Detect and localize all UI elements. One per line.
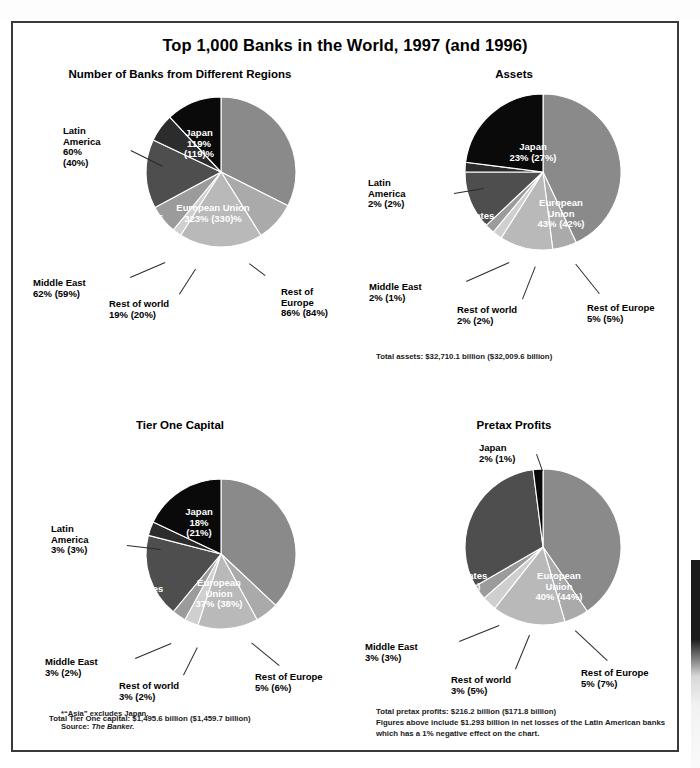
panel-number-of-banks: Number of Banks from Different Regions E… [13,68,347,388]
slice-label-value: 13%(12%) [194,647,219,669]
slice-label-name: United States [103,583,164,594]
panel-title-tier-one-capital: Tier One Capital [13,419,347,431]
slice-label-european-union: EuropeanUnion40% (44%) [536,571,583,603]
slice-label-asia: Asia*13%(12%) [194,637,219,669]
slice-label-name: Japan [519,141,546,152]
scan-margin-top [0,0,700,21]
slice-label-middle-east: Middle East3% (3%) [365,642,418,663]
slice-label-name: Rest of world [119,680,179,691]
panel-assets: Assets Total assets: $32,710.1 billion (… [347,68,681,388]
slice-label-japan: Japan18%(21%) [185,507,212,539]
slice-label-name: Middle East [33,277,86,288]
leader-line [135,643,171,659]
slice-label-name: Japan [185,506,212,517]
slice-label-european-union: European Union323% (330)% [176,203,249,224]
slice-label-united-states: United States31% (34%) [427,571,488,592]
leader-line [466,262,509,282]
slice-label-rest-of-europe: Rest of Europe5% (6%) [255,672,323,693]
slice-label-value: 5% (5%) [587,313,623,324]
leader-line [251,642,280,666]
pie-svg-number-of-banks [145,96,297,248]
footnote-asia: *“Asia” excludes Japan. [61,708,148,721]
slice-label-japan: Japan2% (1%) [479,443,515,464]
slice-label-japan: Japan23% (27%) [510,142,557,163]
slice-label-name: Asia* [201,266,225,277]
slice-label-value: 23% (27%) [510,152,557,163]
slice-label-japan: Japan119%(119)% [184,128,214,160]
slice-label-name: Middle East [365,641,418,652]
leader-line [459,625,499,642]
slice-label-rest-of-world: Rest of world2% (2%) [457,305,517,326]
slice-label-latin-america: LatinAmerica60%(40%) [63,126,101,169]
panel-title-pretax-profits: Pretax Profits [347,419,681,431]
slice-label-value: 18%(21%) [186,517,211,539]
slice-label-name: Rest of world [451,674,511,685]
slice-label-name: Rest of Europe [587,302,655,313]
slice-label-latin-america: LatinAmerica3% (3%) [51,524,89,556]
slice-label-name: LatinAmerica [368,177,406,199]
slice-label-asia: Asia*15%(16%) [528,632,553,664]
slice-label-name: United States [103,211,164,222]
slice-label-united-states: United States18% (16%) [103,584,164,605]
slice-label-value: 119%(119)% [184,138,214,160]
scan-edge-artifact [691,560,700,768]
slice-label-middle-east: Middle East62% (59%) [33,278,86,299]
slice-label-value: 3% (5%) [451,685,487,696]
slice-label-value: 2% (2%) [368,198,404,209]
slice-label-rest-of-world: Rest of world3% (2%) [119,681,179,702]
slice-label-rest-of-europe: Rest of Europe5% (7%) [581,668,649,689]
slice-label-value: 148% (156%) [104,222,162,233]
slice-label-name: European Union [176,202,249,213]
slice-label-value: 12% (11%) [441,221,487,232]
slice-label-value: 2% (1%) [479,453,515,464]
slice-label-name: Rest of world [109,298,169,309]
slice-label-name: Japan [185,127,212,138]
slice-label-european-union: EuropeanUnion37% (38%) [196,578,243,610]
slice-label-name: United States [434,210,495,221]
slice-label-name: LatinAmerica [51,523,89,545]
slice-label-name: Rest of world [457,304,517,315]
slice-label-latin-america: LatinAmerica2% (2%) [368,178,406,210]
pie-number-of-banks [145,96,297,248]
extra-note-pretax-profits: Figures above include $1.293 billion in … [376,717,676,740]
footnote-source: Source: The Banker. [61,721,148,734]
page-title: Top 1,000 Banks in the World, 1997 (and … [13,36,677,55]
slice-label-value: 3% (3%) [51,544,87,555]
footnote-source-label: Source: [61,722,91,731]
slice-label-value: 3% (3%) [365,652,401,663]
slice-label-middle-east: Middle East2% (1%) [369,282,422,303]
slice-label-name: EuropeanUnion [537,570,581,592]
slice-label-value: 15%(16%) [528,642,553,664]
slice-label-name: Middle East [369,281,422,292]
slice-label-rest-of-europe: Rest of Europe5% (5%) [587,303,655,324]
slice-label-united-states: United States12% (11%) [434,211,495,232]
slice-label-name: EuropeanUnion [197,577,241,599]
total-note-pretax-profits: Total pretax profits: $216.2 billion ($1… [376,706,556,717]
footnote-source-name: The Banker. [91,722,134,731]
slice-label-name: Japan [479,442,506,453]
chart-frame: Top 1,000 Banks in the World, 1997 (and … [11,21,679,752]
slice-label-value: 2% (2%) [457,315,493,326]
slice-label-value: 40% (44%) [536,591,583,602]
slice-label-middle-east: Middle East3% (2%) [45,657,98,678]
slice-label-value: 31% (34%) [434,581,481,592]
slice-label-name: Asia* [195,636,219,647]
slice-label-value: 19% (20%) [109,309,156,320]
slice-label-asia: Asia*11%(10%) [530,258,555,290]
panel-title-number-of-banks: Number of Banks from Different Regions [13,68,347,80]
leader-line [575,630,608,661]
slice-label-name: Rest ofEurope [281,286,314,308]
leader-line [249,263,266,276]
slice-label-value: 179% (172%) [184,277,242,288]
slice-label-european-union: EuropeanUnion43% (42%) [538,198,585,230]
slice-label-value: 5% (6%) [255,682,291,693]
slice-label-value: 18% (16%) [110,594,157,605]
slice-label-value: 62% (59%) [33,288,80,299]
slice-label-name: EuropeanUnion [539,197,583,219]
slice-label-value: 60%(40%) [63,146,88,168]
slice-label-united-states: United States148% (156%) [103,212,164,233]
slice-label-name: LatinAmerica [63,125,101,147]
slice-label-rest-of-europe: Rest ofEurope86% (84%) [281,287,328,319]
slice-label-value: 2% (1%) [369,292,405,303]
slice-label-name: Rest of Europe [255,671,323,682]
